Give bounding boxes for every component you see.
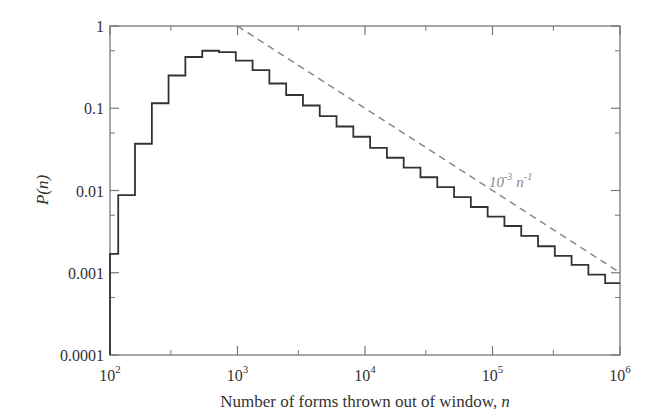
plot-frame [110, 26, 620, 355]
x-tick-label: 105 [482, 363, 504, 384]
chart: 10.10.010.0010.0001 102103104105106 10-3… [0, 0, 657, 417]
x-axis-title: Number of forms thrown out of window,n [220, 392, 510, 411]
power-law-annotation: 10-3n-1 [489, 171, 532, 190]
y-tick-label: 1 [96, 18, 104, 35]
y-tick-label: 0.01 [76, 183, 104, 200]
x-axis-title-text: Number of forms thrown out of window, [220, 392, 497, 411]
y-tick-label: 0.0001 [60, 347, 104, 364]
x-tick-label: 103 [227, 363, 249, 384]
plot-border [110, 26, 620, 355]
x-tick-label: 102 [99, 363, 121, 384]
y-axis-ticks: 10.10.010.0010.0001 [60, 18, 620, 364]
x-axis-ticks: 102103104105106 [99, 26, 631, 384]
x-tick-label: 106 [609, 363, 631, 384]
y-tick-label: 0.1 [84, 100, 104, 117]
annotation-layer: 10-3n-1 [489, 171, 532, 190]
x-tick-label: 104 [354, 363, 376, 384]
series-layer [110, 26, 620, 355]
y-tick-label: 0.001 [68, 265, 104, 282]
y-axis-title: P(n) [33, 175, 52, 207]
reference-power-law-line [238, 26, 621, 273]
x-axis-title-var: n [501, 392, 510, 411]
histogram-step-line [110, 51, 620, 355]
